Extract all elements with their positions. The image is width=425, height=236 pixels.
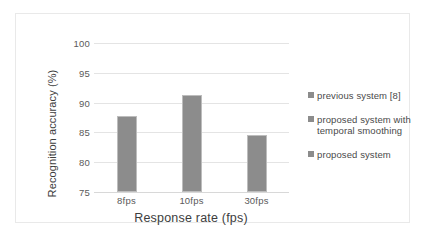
y-tick-label: 85 xyxy=(79,127,90,138)
bar xyxy=(117,116,137,192)
legend-swatch-icon xyxy=(308,92,314,98)
legend-swatch-icon xyxy=(308,116,314,122)
bar xyxy=(182,95,202,192)
legend-swatch-icon xyxy=(308,151,314,157)
x-axis-tick-labels: 8fps10fps30fps xyxy=(94,195,289,209)
gridline-100 xyxy=(94,43,289,44)
gridline-75 xyxy=(94,192,289,193)
y-tick-label: 75 xyxy=(79,187,90,198)
x-tick-label: 8fps xyxy=(117,195,136,206)
y-axis-title: Recognition accuracy (%) xyxy=(46,59,62,208)
legend-entry: previous system [8] xyxy=(308,90,425,101)
chart-frame: Recognition accuracy (%) 1009590858075 8… xyxy=(15,13,410,223)
x-tick-label: 10fps xyxy=(179,195,203,206)
bar xyxy=(247,135,267,192)
bar-chart-figure: Recognition accuracy (%) 1009590858075 8… xyxy=(0,0,425,236)
legend-entry: proposed system with temporal smoothing xyxy=(308,114,425,136)
y-axis-tick-labels: 1009590858075 xyxy=(66,43,90,192)
x-tick-label: 30fps xyxy=(244,195,268,206)
legend-label: proposed system with temporal smoothing xyxy=(317,114,425,136)
legend-entry: proposed system xyxy=(308,149,425,160)
legend-label: previous system [8] xyxy=(317,90,401,101)
y-tick-label: 95 xyxy=(79,67,90,78)
y-tick-label: 90 xyxy=(79,97,90,108)
x-axis-title: Response rate (fps) xyxy=(76,211,306,225)
y-tick-label: 80 xyxy=(79,157,90,168)
y-tick-label: 100 xyxy=(74,38,90,49)
legend-label: proposed system xyxy=(317,149,391,160)
gridline-95 xyxy=(94,73,289,74)
chart-legend: previous system [8]proposed system with … xyxy=(308,90,425,173)
plot-area xyxy=(94,43,289,192)
